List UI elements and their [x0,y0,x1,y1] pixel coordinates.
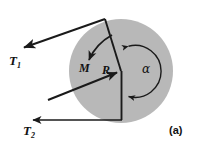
figure-container: T1 T2 M R α (a) [0,0,200,149]
part-label: (a) [169,125,182,136]
tension-2-label: T2 [23,124,35,137]
tension-2-symbol: T [23,123,31,138]
tension-1-subscript: 1 [17,61,21,70]
wrap-angle-label: α [142,63,150,75]
moment-label: M [79,62,90,74]
tension-1-symbol: T [9,53,17,68]
tension-1-label: T1 [9,54,21,67]
tension-2-subscript: 2 [31,131,35,140]
radius-label: R [102,64,110,76]
